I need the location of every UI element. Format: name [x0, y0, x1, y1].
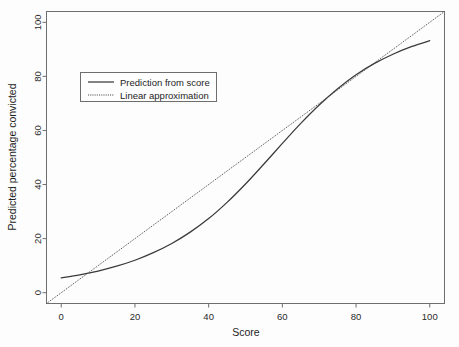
y-axis-ticks: 020406080100 [32, 14, 47, 295]
y-tick-label: 20 [32, 233, 43, 244]
x-tick-label: 20 [130, 311, 141, 322]
chart-figure: Score Predicted percentage convicted 020… [0, 0, 459, 347]
y-tick-label: 0 [32, 290, 43, 295]
x-axis-ticks: 020406080100 [59, 304, 438, 322]
chart-legend[interactable]: Prediction from scoreLinear approximatio… [81, 73, 217, 102]
x-tick-label: 40 [203, 311, 214, 322]
x-axis-title: Score [232, 326, 260, 338]
plot-canvas: Score Predicted percentage convicted 020… [0, 0, 459, 347]
series-line-dotted [47, 12, 445, 304]
series-layer [47, 12, 445, 304]
y-tick-label: 80 [32, 71, 43, 82]
x-tick-label: 80 [351, 311, 362, 322]
y-tick-label: 100 [32, 14, 43, 30]
legend-label[interactable]: Linear approximation [120, 90, 209, 101]
x-tick-label: 60 [277, 311, 288, 322]
y-tick-label: 40 [32, 179, 43, 190]
y-axis-title: Predicted percentage convicted [6, 83, 18, 230]
y-tick-label: 60 [32, 125, 43, 136]
legend-label[interactable]: Prediction from score [120, 77, 210, 88]
x-tick-label: 100 [422, 311, 438, 322]
x-tick-label: 0 [59, 311, 64, 322]
